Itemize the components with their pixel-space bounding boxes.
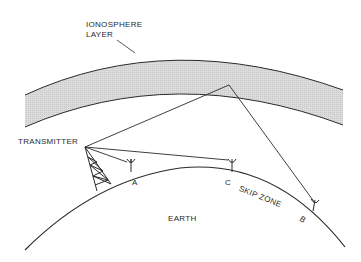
- ionosphere-leader-line: [117, 40, 135, 53]
- receiver-a-antenna-icon: [127, 159, 135, 172]
- ionosphere-label: IONOSPHERE: [86, 20, 142, 29]
- receiver-c-label: C: [225, 178, 231, 187]
- transmitter-label: TRANSMITTER: [18, 137, 78, 146]
- earth-surface: [25, 167, 345, 250]
- transmitter-tower-icon: [85, 147, 111, 191]
- receiver-a-label: A: [132, 178, 138, 187]
- ionosphere-layer-label: LAYER: [86, 30, 113, 39]
- ground-wave-to-c: [85, 147, 228, 160]
- earth-label: EARTH: [168, 214, 196, 223]
- receiver-b-antenna-icon: [311, 199, 319, 211]
